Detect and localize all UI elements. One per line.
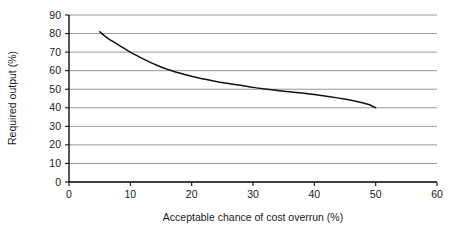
y-tick-label: 40 <box>49 101 61 113</box>
x-tick-label: 40 <box>308 188 320 200</box>
y-tick-label: 50 <box>49 83 61 95</box>
line-chart: 0102030405060708090 0102030405060 Requir… <box>0 0 453 237</box>
x-tick-label: 60 <box>431 188 443 200</box>
y-tick-label: 20 <box>49 138 61 150</box>
chart-background <box>0 0 453 237</box>
y-tick-label: 90 <box>49 9 61 21</box>
chart-figure: 0102030405060708090 0102030405060 Requir… <box>0 0 453 237</box>
y-tick-label: 70 <box>49 46 61 58</box>
y-axis-title: Required output (%) <box>6 51 18 145</box>
y-tick-label: 80 <box>49 27 61 39</box>
y-tick-label: 60 <box>49 64 61 76</box>
x-axis-title: Acceptable chance of cost overrun (%) <box>163 211 343 223</box>
y-tick-label: 30 <box>49 120 61 132</box>
x-tick-label: 10 <box>124 188 136 200</box>
y-tick-label: 0 <box>55 176 61 188</box>
x-tick-label: 30 <box>247 188 259 200</box>
x-tick-label: 20 <box>186 188 198 200</box>
x-tick-label: 50 <box>370 188 382 200</box>
x-tick-label: 0 <box>66 188 72 200</box>
y-tick-label: 10 <box>49 157 61 169</box>
